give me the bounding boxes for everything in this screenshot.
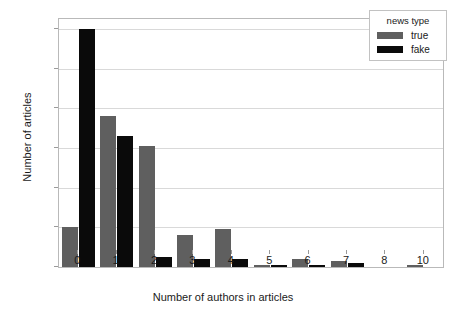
x-tick-label: 6 bbox=[288, 254, 328, 266]
x-tick-mark bbox=[192, 250, 193, 254]
x-tick-label: 5 bbox=[249, 254, 289, 266]
legend-item-true: true bbox=[377, 30, 439, 41]
legend-item-fake: fake bbox=[377, 44, 439, 55]
y-tick-mark bbox=[54, 147, 58, 148]
y-tick-mark bbox=[54, 266, 58, 267]
x-tick-mark bbox=[116, 250, 117, 254]
y-tick-mark bbox=[54, 107, 58, 108]
x-tick-label: 2 bbox=[134, 254, 174, 266]
x-tick-label: 8 bbox=[364, 254, 404, 266]
x-tick-mark bbox=[77, 250, 78, 254]
x-tick-mark bbox=[308, 250, 309, 254]
bar-true-1 bbox=[100, 116, 116, 267]
y-tick-mark bbox=[54, 68, 58, 69]
x-tick-mark bbox=[346, 250, 347, 254]
y-tick-mark bbox=[54, 28, 58, 29]
bar-fake-1 bbox=[117, 136, 133, 267]
x-tick-label: 7 bbox=[326, 254, 366, 266]
legend-title: news type bbox=[377, 15, 439, 26]
x-tick-label: 10 bbox=[403, 254, 443, 266]
x-tick-mark bbox=[384, 250, 385, 254]
legend: news type true fake bbox=[369, 10, 447, 61]
x-tick-mark bbox=[231, 250, 232, 254]
x-tick-mark bbox=[269, 250, 270, 254]
y-tick-mark bbox=[54, 226, 58, 227]
bar-fake-0 bbox=[79, 29, 95, 267]
legend-label-fake: fake bbox=[411, 44, 430, 55]
x-tick-label: 1 bbox=[96, 254, 136, 266]
x-tick-mark bbox=[154, 250, 155, 254]
y-axis-label: Number of articles bbox=[21, 52, 33, 222]
x-tick-label: 0 bbox=[57, 254, 97, 266]
bar-chart-figure: Number of articles Number of authors in … bbox=[0, 0, 452, 312]
x-axis-label: Number of authors in articles bbox=[58, 291, 388, 303]
y-tick-mark bbox=[54, 187, 58, 188]
legend-swatch-fake-icon bbox=[377, 46, 403, 53]
x-tick-mark bbox=[423, 250, 424, 254]
legend-swatch-true-icon bbox=[377, 32, 403, 39]
x-tick-label: 4 bbox=[211, 254, 251, 266]
bar-true-2 bbox=[139, 146, 155, 267]
x-tick-label: 3 bbox=[172, 254, 212, 266]
legend-label-true: true bbox=[411, 30, 428, 41]
